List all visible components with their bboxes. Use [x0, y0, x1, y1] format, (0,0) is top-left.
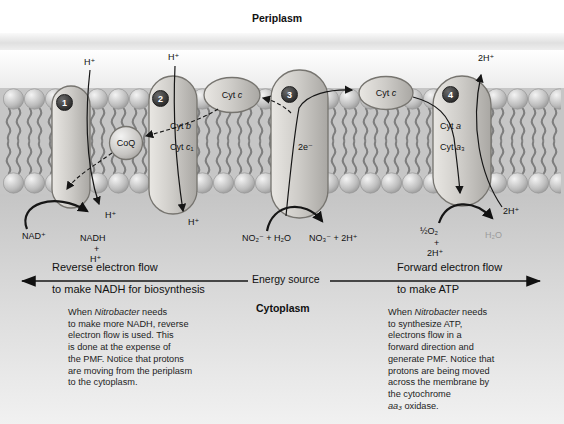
nadh-label: NADH: [80, 233, 106, 243]
two-electrons-label: 2e⁻: [298, 142, 313, 152]
complex-3-badge: 3: [281, 86, 298, 103]
h-plus-bottom-complex1: H⁺: [105, 210, 116, 220]
nadh-plus-sign: +: [94, 244, 99, 254]
reverse-flow-caption-line1: Reverse electron flow: [52, 262, 158, 272]
cyt-a-label: Cyt a: [440, 121, 461, 131]
o2-plus-sign: +: [434, 238, 439, 248]
h2o-label: H₂O: [485, 230, 502, 240]
nad-label: NAD⁺: [22, 231, 46, 241]
reverse-flow-note: When Nitrobacter needsto make more NADH,…: [68, 307, 248, 389]
cyt-c-left-label: Cyt c: [222, 90, 243, 100]
electron-transport-diagram: 1 2 3 4 Periplasm Cytoplasm H⁺ H⁺ 2H⁺ H⁺…: [0, 0, 564, 424]
cyt-c-right-label: Cyt c: [376, 88, 397, 98]
forward-flow-caption-line1: Forward electron flow: [397, 262, 502, 272]
energy-source-label: Energy source: [252, 274, 320, 284]
nitrate-label: NO₃⁻ + 2H⁺: [309, 233, 357, 243]
cyt-b-label: Cyt b: [170, 121, 191, 131]
cyt-a3-label: Cyt a₃: [440, 142, 465, 152]
complex-2-badge: 2: [152, 90, 169, 107]
forward-flow-note: When Nitrobacter needsto synthesize ATP,…: [388, 307, 538, 412]
two-h-plus-cytoplasm: 2H⁺: [503, 206, 519, 216]
half-o2-label: ½O₂: [420, 226, 438, 236]
h-plus-top-complex2: H⁺: [168, 52, 179, 62]
h-plus-bottom-complex2: H⁺: [188, 217, 199, 227]
periplasm-label: Periplasm: [252, 13, 302, 23]
nitrite-label: NO₂⁻ + H₂O: [242, 233, 291, 243]
cytoplasm-label: Cytoplasm: [256, 303, 310, 313]
forward-flow-caption-line2: to make ATP: [397, 284, 459, 294]
complex-4-badge: 4: [442, 86, 459, 103]
reverse-flow-caption-line2: to make NADH for biosynthesis: [52, 284, 205, 294]
coq-label: CoQ: [117, 138, 136, 148]
h-plus-top-complex1: H⁺: [84, 57, 95, 67]
o2-two-h-plus-label: 2H⁺: [427, 248, 443, 258]
cyt-c1-label: Cyt c₁: [170, 142, 194, 152]
two-h-plus-periplasm: 2H⁺: [478, 53, 494, 63]
complex-1-badge: 1: [56, 94, 73, 111]
